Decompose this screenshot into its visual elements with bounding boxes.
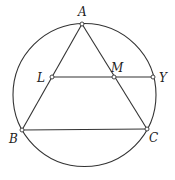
label-L: L: [36, 71, 45, 85]
point-B: [20, 128, 24, 132]
geometry-diagram: A L M Y B C: [0, 0, 175, 180]
label-A: A: [77, 5, 87, 19]
segment-BC: [22, 129, 147, 130]
label-B: B: [8, 132, 18, 146]
point-L: [50, 75, 54, 79]
point-A: [80, 22, 84, 26]
point-Y: [151, 75, 155, 79]
point-M: [112, 75, 116, 79]
circumcircle: [13, 24, 156, 167]
label-M: M: [110, 61, 124, 75]
label-C: C: [149, 131, 158, 145]
label-Y: Y: [159, 71, 168, 85]
